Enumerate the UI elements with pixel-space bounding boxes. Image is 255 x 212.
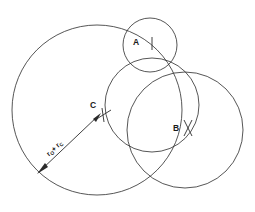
point-a-label: A <box>133 37 139 47</box>
radius-dimension-line <box>40 115 99 171</box>
geometry-canvas: A B C rO+ rC <box>0 0 255 212</box>
circle-b <box>127 72 243 188</box>
diagram-root: A B C rO+ rC <box>0 0 255 212</box>
radius-sum-label: rO+ rC <box>45 139 65 158</box>
point-c-label: C <box>90 100 96 110</box>
point-b-label: B <box>173 123 179 133</box>
circle-o <box>12 25 182 195</box>
circle-a <box>123 18 177 72</box>
radius-sum-label-group: rO+ rC <box>45 139 65 158</box>
